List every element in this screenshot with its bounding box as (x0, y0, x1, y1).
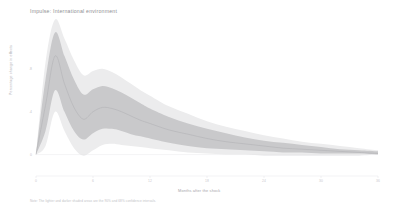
y-tick-label: 0 (18, 153, 32, 157)
x-tick-label: 0 (30, 179, 42, 183)
y-tick-label: .4 (18, 110, 32, 114)
impulse-response-figure: Impulse: International environment Perce… (0, 0, 407, 215)
x-tick-label: 24 (258, 179, 270, 183)
x-tick-label: 30 (315, 179, 327, 183)
y-tick-label: .8 (18, 67, 32, 71)
x-tick-label: 36 (372, 179, 384, 183)
x-tick-label: 12 (144, 179, 156, 183)
x-tick-label: 18 (201, 179, 213, 183)
x-tick-label: 6 (87, 179, 99, 183)
